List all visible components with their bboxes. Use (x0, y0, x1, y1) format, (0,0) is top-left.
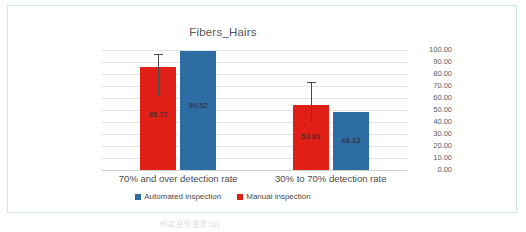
gridline (102, 170, 407, 171)
category-axis: 70% and over detection rate30% to 70% de… (102, 173, 407, 189)
chart-legend: Automated inspectionManual inspection (8, 192, 438, 201)
y-axis-tick-label: 30.00 (408, 130, 452, 138)
y-axis-tick-label: 100.00 (408, 46, 452, 54)
y-axis-tick-label: 90.00 (408, 58, 452, 66)
y-axis-tick-label: 40.00 (408, 118, 452, 126)
legend-swatch-icon (135, 194, 141, 200)
bar-value-label: 48.33 (333, 136, 369, 145)
gridline (102, 62, 407, 63)
bar-value-label: 53.89 (293, 132, 329, 141)
error-bar-cap (154, 54, 163, 55)
gridline (102, 50, 407, 51)
category-label: 70% and over detection rate (102, 173, 255, 184)
error-bar-cap (307, 82, 316, 83)
y-axis-tick-label: 20.00 (408, 142, 452, 150)
bar-value-label: 99.52 (180, 101, 216, 110)
y-axis-tick-label: 50.00 (408, 106, 452, 114)
y-axis-tick-label: 10.00 (408, 154, 452, 162)
bar-value-label: 85.72 (140, 110, 176, 119)
error-bar-stem (311, 82, 312, 123)
plot-area: 85.7299.5253.8948.33 (102, 50, 407, 170)
page-caption: 비교 분석 결과 11) (160, 218, 220, 229)
legend-item[interactable]: Automated inspection (135, 192, 221, 201)
y-axis-tick-label: 60.00 (408, 94, 452, 102)
y-axis-tick-label: 80.00 (408, 70, 452, 78)
category-label: 30% to 70% detection rate (255, 173, 408, 184)
legend-swatch-icon (237, 194, 243, 200)
y-axis-tick-label: 70.00 (408, 82, 452, 90)
y-axis-tick-label: 0.00 (408, 166, 452, 174)
chart-title: Fibers_Hairs (8, 26, 438, 38)
bar-automated (180, 51, 216, 170)
y-axis: 100.0090.0080.0070.0060.0050.0040.0030.0… (408, 42, 452, 178)
legend-label: Automated inspection (144, 192, 221, 201)
legend-item[interactable]: Manual inspection (237, 192, 310, 201)
legend-label: Manual inspection (246, 192, 310, 201)
bar-chart: Fibers_Hairs 85.7299.5253.8948.33 100.00… (8, 6, 518, 214)
slide-frame: Fibers_Hairs 85.7299.5253.8948.33 100.00… (7, 5, 517, 213)
error-bar-stem (158, 54, 159, 96)
